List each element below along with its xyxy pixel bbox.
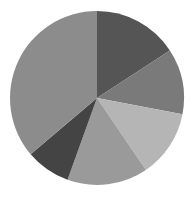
pie-chart bbox=[0, 0, 196, 200]
pie-chart-svg bbox=[0, 0, 196, 200]
